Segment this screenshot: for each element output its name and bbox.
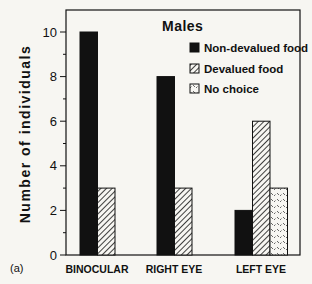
bar-non-devalued-food-left-eye xyxy=(235,210,253,255)
bar-devalued-food-left-eye xyxy=(253,121,271,255)
svg-text:10: 10 xyxy=(43,25,57,40)
svg-text:8: 8 xyxy=(50,69,57,84)
x-category-label: LEFT EYE xyxy=(236,263,286,275)
x-category-label: RIGHT EYE xyxy=(146,263,203,275)
svg-text:4: 4 xyxy=(50,158,57,173)
chart-title: Males xyxy=(162,18,203,34)
svg-text:0: 0 xyxy=(50,248,57,263)
legend-swatch xyxy=(190,43,199,52)
bar-non-devalued-food-right-eye xyxy=(157,77,175,255)
bar-chart: 0246810 Number of individuals BINOCULARR… xyxy=(0,0,312,284)
y-axis: 0246810 xyxy=(43,25,66,263)
svg-text:2: 2 xyxy=(50,203,57,218)
legend-label: No choice xyxy=(204,83,259,95)
y-axis-title: Number of individuals xyxy=(17,45,33,224)
legend-swatch xyxy=(190,64,199,73)
legend-label: Non-devalued food xyxy=(204,42,308,54)
x-axis-categories: BINOCULARRIGHT EYELEFT EYE xyxy=(66,263,287,275)
bar-no-choice-left-eye xyxy=(270,188,288,255)
bar-devalued-food-right-eye xyxy=(175,188,193,255)
panel-label: (a) xyxy=(10,262,23,274)
legend-swatch xyxy=(190,84,199,93)
legend: Non-devalued foodDevalued foodNo choice xyxy=(190,42,308,95)
bar-devalued-food-binocular xyxy=(98,188,116,255)
x-category-label: BINOCULAR xyxy=(66,263,129,275)
bar-non-devalued-food-binocular xyxy=(80,32,98,255)
svg-text:6: 6 xyxy=(50,114,57,129)
legend-label: Devalued food xyxy=(204,63,283,75)
